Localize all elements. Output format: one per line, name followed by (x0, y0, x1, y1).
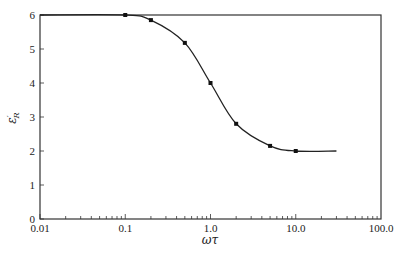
data-curve (40, 15, 336, 152)
y-tick-label: 5 (30, 43, 36, 55)
y-axis-tick-labels: 0123456 (30, 9, 36, 225)
data-point-marker (149, 18, 153, 22)
x-tick-label: 10.0 (286, 222, 306, 234)
y-tick-label: 1 (30, 179, 36, 191)
y-tick-label: 3 (30, 111, 36, 123)
data-point-marker (234, 122, 238, 126)
y-tick-label: 2 (30, 145, 36, 157)
data-point-marker (209, 81, 213, 85)
data-markers (123, 13, 298, 153)
svg-text:ε′R: ε′R (5, 112, 21, 123)
y-axis-label-sub: R (12, 112, 21, 119)
data-point-marker (123, 13, 127, 17)
x-axis-label: ωτ (202, 233, 219, 247)
x-axis-ticks (40, 214, 377, 219)
y-axis-label: ε′R (5, 112, 21, 123)
y-tick-label: 6 (30, 9, 36, 21)
x-tick-label: 0.1 (118, 222, 132, 234)
y-tick-label: 4 (30, 77, 36, 89)
y-tick-label: 0 (30, 213, 36, 225)
x-tick-label: 100.0 (369, 222, 394, 234)
data-point-marker (183, 41, 187, 45)
plot-frame (40, 15, 381, 219)
data-point-marker (294, 149, 298, 153)
data-point-marker (268, 144, 272, 148)
chart: 0.010.11.010.0100.0 0123456 ωτ ε′R (0, 0, 400, 256)
